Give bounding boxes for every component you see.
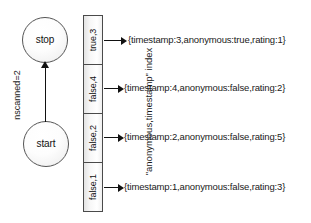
index-cell-key: false,1	[88, 174, 98, 200]
document-pointer-shaft	[104, 187, 119, 188]
document-pointer	[104, 84, 125, 93]
transition-arrow-shaft	[45, 67, 46, 122]
index-scan-diagram: stop start nscanned=2 "anonymous,timesta…	[0, 0, 311, 223]
state-node-stop[interactable]: stop	[22, 17, 68, 63]
index-cell-key: true,3	[88, 29, 98, 51]
document-text: {timestamp:4,anonymous:false,rating:2}	[124, 83, 285, 93]
transition-label-nscanned: nscanned=2	[12, 65, 22, 125]
transition-arrow-head-icon	[41, 61, 49, 68]
document-text: {timestamp:1,anonymous:false,rating:3}	[124, 182, 285, 192]
index-cell-key: false,4	[88, 76, 98, 102]
document-pointer-shaft	[104, 137, 119, 138]
document-pointer-shaft	[104, 40, 122, 41]
document-pointer	[104, 183, 125, 192]
state-node-stop-label: stop	[36, 35, 55, 45]
index-cell[interactable]: true,3	[84, 16, 102, 65]
document-text: {timestamp:2,anonymous:false,rating:5}	[124, 132, 285, 142]
document-pointer-head-icon	[121, 37, 127, 45]
index-cell[interactable]: false,4	[84, 65, 102, 114]
document-pointer	[104, 36, 128, 45]
state-node-start[interactable]: start	[23, 121, 69, 167]
document-pointer	[104, 133, 125, 142]
index-column: true,3 false,4 false,2 false,1	[83, 15, 103, 212]
index-cell-key: false,2	[88, 125, 98, 151]
index-cell[interactable]: false,2	[84, 114, 102, 163]
document-pointer-shaft	[104, 88, 119, 89]
document-text: {timestamp:3,anonymous:true,rating:1}	[128, 35, 286, 45]
index-caption: "anonymous,timestamp" index	[143, 29, 154, 195]
state-node-start-label: start	[37, 139, 56, 149]
index-cell[interactable]: false,1	[84, 163, 102, 211]
